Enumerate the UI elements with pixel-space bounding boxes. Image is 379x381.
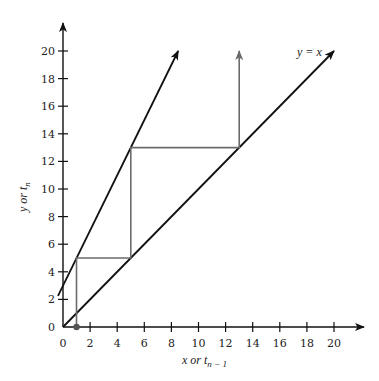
x-tick-label: 2: [87, 337, 94, 350]
identity-line-label: y = x: [296, 45, 322, 59]
y-tick-label: 12: [41, 155, 55, 168]
x-tick-label: 0: [60, 337, 67, 350]
y-tick-label: 8: [48, 211, 55, 224]
y-tick-label: 18: [41, 73, 55, 86]
y-tick-label: 10: [41, 183, 55, 196]
x-tick-label: 14: [246, 337, 260, 350]
axis-labels: x or tn − 1 y or tn y = x: [16, 45, 322, 369]
plot-area: [58, 51, 334, 330]
x-tick-label: 6: [141, 337, 148, 350]
chart: 0246810121416182002468101214161820 x or …: [0, 0, 379, 381]
y-tick-label: 2: [48, 293, 55, 306]
y-tick-label: 20: [41, 45, 55, 58]
x-tick-label: 10: [192, 337, 206, 350]
x-tick-label: 18: [300, 337, 314, 350]
x-axis-label: x or tn − 1: [181, 353, 227, 369]
y-tick-label: 6: [48, 238, 55, 251]
x-tick-label: 20: [327, 337, 341, 350]
y-tick-label: 16: [41, 100, 55, 113]
y-tick-label: 14: [41, 128, 55, 141]
x-tick-label: 16: [273, 337, 287, 350]
x-tick-label: 8: [168, 337, 175, 350]
identity-line: [63, 51, 334, 327]
start-point: [73, 324, 79, 330]
x-tick-label: 4: [114, 337, 121, 350]
y-axis-label: y or tn: [16, 182, 32, 213]
y-tick-label: 4: [48, 266, 55, 279]
y-tick-label: 0: [48, 321, 55, 334]
x-tick-label: 12: [219, 337, 233, 350]
